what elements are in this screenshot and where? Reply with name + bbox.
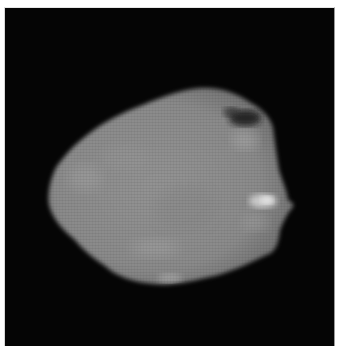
asteroid-image — [5, 8, 334, 346]
image-frame — [4, 7, 335, 346]
bright-highlight — [249, 194, 277, 208]
